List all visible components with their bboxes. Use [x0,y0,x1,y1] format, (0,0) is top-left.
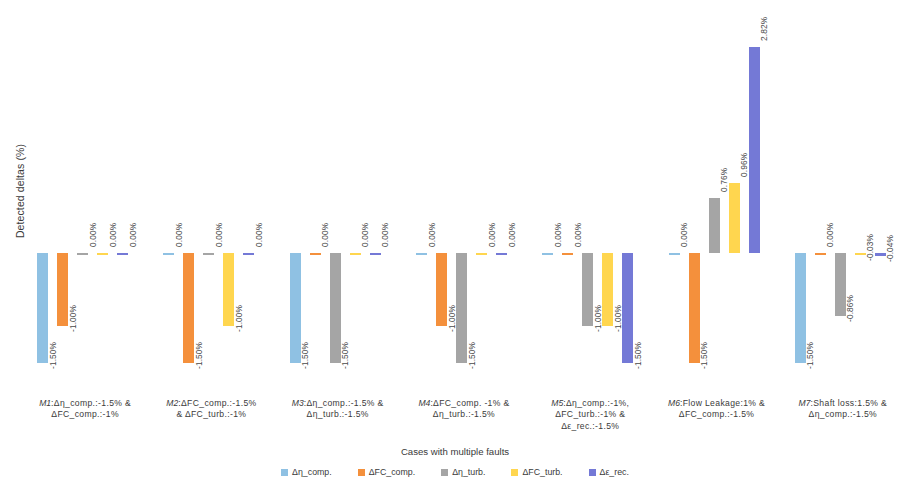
bar[interactable] [602,253,613,326]
legend-item-2[interactable]: Δη_turb. [441,467,485,477]
bar-slot: 0.00% [811,8,831,393]
x-axis-category-labels: M1:Δη_comp.:-1.5% &ΔFC_comp.:-1%M2:ΔFC_c… [22,398,906,444]
bar-slot: 0.00% [366,8,386,393]
legend-label: ΔFC_turb. [522,467,562,477]
bar[interactable] [77,253,88,255]
bar-group: 0.00%-1.50%0.76%0.96%2.82% [665,8,765,393]
bar-slot: -0.03% [851,8,871,393]
bar-value-label: 0.00% [128,223,138,247]
bar-group: 0.00%-1.00%-1.50%0.00%0.00% [412,8,512,393]
bar-value-label: 0.00% [254,223,264,247]
bar[interactable] [582,253,593,326]
bar[interactable] [476,253,487,255]
bar[interactable] [370,253,381,255]
bar-value-label: 2.82% [759,17,769,41]
bar-value-label: 0.00% [507,223,517,247]
bar-group: -1.50%-1.00%0.00%0.00%0.00% [33,8,133,393]
bar[interactable] [57,253,68,326]
x-axis-title: Cases with multiple faults [0,446,910,457]
legend-swatch-icon [358,469,365,476]
bar-slot: 0.00% [239,8,259,393]
case-id: M6 [668,398,680,408]
legend-label: Δη_turb. [452,467,485,477]
bar-slot: -1.50% [179,8,199,393]
bar[interactable] [436,253,447,326]
bar-slot: 0.00% [538,8,558,393]
bar[interactable] [542,253,553,255]
bar-slot: -1.50% [618,8,638,393]
bar-slot: 0.00% [199,8,219,393]
bar-group: -1.50%0.00%-1.50%0.00%0.00% [286,8,386,393]
bar-slot: -1.00% [53,8,73,393]
plot-area: -1.50%-1.00%0.00%0.00%0.00%0.00%-1.50%0.… [22,8,906,393]
bar-slot: 0.00% [93,8,113,393]
legend-item-4[interactable]: Δε_rec. [589,467,629,477]
bar-slot: -0.04% [871,8,891,393]
bar-slot: -1.50% [452,8,472,393]
bar[interactable] [310,253,321,255]
bar[interactable] [562,253,573,255]
legend-item-0[interactable]: Δη_comp. [281,467,332,477]
bar-slot: 2.82% [745,8,765,393]
legend-item-3[interactable]: ΔFC_turb. [511,467,562,477]
case-id: M3 [292,398,304,408]
bar[interactable] [243,253,254,255]
bar[interactable] [496,253,507,255]
bar[interactable] [669,253,680,255]
bar[interactable] [749,47,760,253]
bar-group: -1.50%0.00%-0.86%-0.03%-0.04% [791,8,891,393]
bar[interactable] [729,183,740,253]
bar-slot: -1.00% [598,8,618,393]
bar-slot: -1.00% [432,8,452,393]
bar[interactable] [223,253,234,326]
x-axis-category-label: M7:Shaft loss:1.5% &Δη_comp.:-1.5% [768,398,910,421]
bar-slot: -1.50% [791,8,811,393]
bar-slot: -1.00% [219,8,239,393]
legend-label: Δη_comp. [292,467,332,477]
bar-value-label: 0.00% [380,223,390,247]
bar[interactable] [163,253,174,255]
legend-item-1[interactable]: ΔFC_comp. [358,467,415,477]
bar-slot: 0.00% [558,8,578,393]
bar[interactable] [815,253,826,255]
bar-slot: 0.00% [346,8,366,393]
bar[interactable] [456,253,467,363]
bar[interactable] [97,253,108,255]
bar-slot: 0.00% [412,8,432,393]
bar-slot: 0.00% [159,8,179,393]
bar-slot: -0.86% [831,8,851,393]
bar-value-label: -1.50% [633,341,643,368]
legend-swatch-icon [589,469,596,476]
bar[interactable] [709,198,720,253]
legend-label: ΔFC_comp. [369,467,415,477]
bar[interactable] [203,253,214,255]
bar[interactable] [622,253,633,363]
legend-swatch-icon [511,469,518,476]
bar-group: 0.00%-1.50%0.00%-1.00%0.00% [159,8,259,393]
bar[interactable] [350,253,361,255]
bar-slot: 0.96% [725,8,745,393]
bar-value-label: -0.04% [885,235,895,262]
bar[interactable] [689,253,700,363]
legend-label: Δε_rec. [600,467,629,477]
chart-root: Detected deltas (%) -1.50%-1.00%0.00%0.0… [0,0,910,488]
bar-slot: -1.50% [685,8,705,393]
bar-slot: 0.76% [705,8,725,393]
bar-slot: 0.00% [472,8,492,393]
bar[interactable] [183,253,194,363]
bar-slot: -1.50% [33,8,53,393]
bar-slot: 0.00% [665,8,685,393]
bar-slot: 0.00% [113,8,133,393]
legend-swatch-icon [441,469,448,476]
bar[interactable] [37,253,48,363]
bar-slot: -1.50% [326,8,346,393]
chart-legend: Δη_comp.ΔFC_comp.Δη_turb.ΔFC_turb.Δε_rec… [0,467,910,477]
bar[interactable] [416,253,427,255]
case-id: M1 [39,398,51,408]
case-id: M2 [166,398,178,408]
bar-group: 0.00%0.00%-1.00%-1.00%-1.50% [538,8,638,393]
bar-slot: 0.00% [492,8,512,393]
case-id: M5 [551,398,563,408]
bar-slot: -1.00% [578,8,598,393]
bar[interactable] [117,253,128,255]
